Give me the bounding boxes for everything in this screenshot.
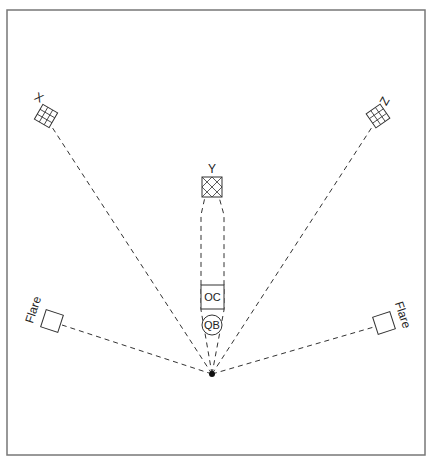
label-y: Y — [208, 162, 216, 176]
label-flare-left: Flare — [22, 294, 44, 325]
label-oc: OC — [204, 291, 221, 303]
route-z — [212, 124, 374, 374]
label-x: X — [32, 89, 46, 105]
label-qb: QB — [204, 319, 220, 331]
flare-right — [373, 312, 396, 335]
receiver-z — [366, 104, 390, 128]
route-flare-left — [62, 325, 212, 374]
flare-left — [41, 310, 64, 333]
receiver-y — [202, 177, 222, 197]
diagram-frame — [7, 10, 425, 455]
receiver-x — [34, 104, 57, 127]
ball-dot — [209, 371, 215, 377]
route-x — [50, 124, 212, 374]
label-flare-right: Flare — [392, 300, 414, 331]
play-diagram: X Z Y Flare Flare OC QB — [0, 0, 434, 465]
route-flare-right — [212, 327, 374, 374]
